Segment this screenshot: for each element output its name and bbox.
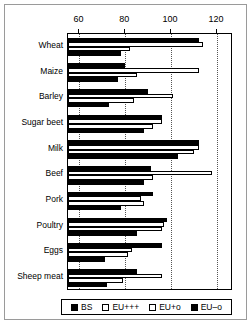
chart-legend: BSEU+++EU+oEU–o: [61, 299, 232, 315]
legend-label: EU+o: [159, 302, 181, 312]
chart-frame: 6080100120WheatMaizeBarleySugar beetMilk…: [4, 4, 247, 320]
legend-item-euo[interactable]: EU–o: [191, 302, 222, 312]
bar-poultry-euo: [68, 231, 137, 236]
x-axis-tick-label: 100: [155, 14, 185, 24]
category-label-wheat: Wheat: [5, 40, 63, 50]
legend-swatch-icon: [191, 304, 198, 311]
category-label-maize: Maize: [5, 66, 63, 76]
x-axis-tick-label: 120: [201, 14, 231, 24]
bar-sheep-meat-euo: [68, 283, 107, 288]
category-label-beef: Beef: [5, 168, 63, 178]
category-label-sheep-meat: Sheep meat: [5, 271, 63, 281]
bar-beef-euo: [68, 180, 144, 185]
plot-area: [67, 33, 232, 290]
bar-eggs-euo: [68, 257, 105, 262]
category-label-eggs: Eggs: [5, 245, 63, 255]
tick-x-80: [124, 29, 125, 33]
bar-barley-euo: [68, 103, 109, 108]
tick-x-120: [216, 29, 217, 33]
category-label-poultry: Poultry: [5, 220, 63, 230]
legend-swatch-icon: [102, 304, 109, 311]
bar-milk-euo: [68, 154, 178, 159]
legend-swatch-icon: [149, 304, 156, 311]
tick-x-100: [170, 29, 171, 33]
category-label-barley: Barley: [5, 91, 63, 101]
legend-label: EU–o: [201, 302, 222, 312]
category-label-milk: Milk: [5, 143, 63, 153]
bar-sugar-beet-euo: [68, 129, 144, 134]
legend-item-euo[interactable]: EU+o: [149, 302, 181, 312]
x-axis-tick-label: 60: [63, 14, 93, 24]
gridline-x-120: [217, 34, 218, 289]
category-label-sugar-beet: Sugar beet: [5, 117, 63, 127]
grouped-bar-chart: 6080100120WheatMaizeBarleySugar beetMilk…: [5, 5, 248, 321]
legend-swatch-icon: [71, 304, 78, 311]
x-axis-tick-label: 80: [109, 14, 139, 24]
bar-wheat-euo: [68, 51, 121, 56]
bar-pork-euo: [68, 206, 121, 211]
legend-label: BS: [81, 302, 92, 312]
bar-maize-euo: [68, 77, 118, 82]
legend-label: EU+++: [112, 302, 139, 312]
legend-item-eu[interactable]: EU+++: [102, 302, 139, 312]
tick-x-60: [78, 29, 79, 33]
category-label-pork: Pork: [5, 194, 63, 204]
legend-item-bs[interactable]: BS: [71, 302, 92, 312]
